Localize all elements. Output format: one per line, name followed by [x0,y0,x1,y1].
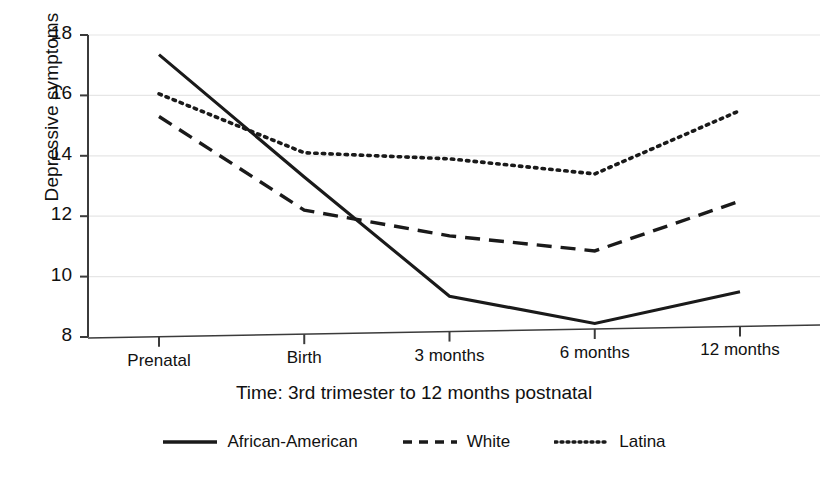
legend-item[interactable]: White [402,432,510,452]
x-axis-line [88,325,820,338]
legend-swatch-solid [162,435,218,449]
x-axis-title: Time: 3rd trimester to 12 months postnat… [0,382,828,404]
chart-legend: African-AmericanWhiteLatina [0,432,828,452]
legend-item[interactable]: African-American [162,432,357,452]
legend-label: White [467,432,510,452]
series-line-white [159,117,740,251]
legend-swatch-dashed [402,435,458,449]
legend-swatch-dotted [554,435,610,449]
legend-item[interactable]: Latina [554,432,665,452]
legend-label: African-American [227,432,357,452]
plot-area [0,0,828,400]
chart-figure: Depressive symptoms 81012141618 Prenatal… [0,0,828,481]
series-line-latina [159,94,740,174]
legend-label: Latina [619,432,665,452]
